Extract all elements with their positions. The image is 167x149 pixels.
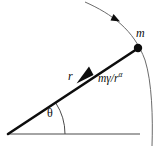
physics-force-diagram: m r mγ/rα θ	[0, 0, 167, 149]
force-base-text: mγ/r	[98, 72, 119, 84]
trajectory-direction-arrowhead	[111, 14, 121, 22]
radius-label: r	[68, 70, 73, 82]
central-force-arrow[interactable]	[77, 67, 94, 84]
radius-vector-line	[8, 49, 137, 134]
particle-mass-dot	[134, 44, 142, 52]
angle-label: θ	[47, 107, 53, 119]
diagram-canvas	[0, 0, 167, 149]
angle-arc	[56, 103, 65, 134]
force-exponent-text: α	[119, 70, 123, 79]
force-magnitude-label: mγ/rα	[98, 71, 122, 84]
mass-label: m	[136, 27, 145, 39]
